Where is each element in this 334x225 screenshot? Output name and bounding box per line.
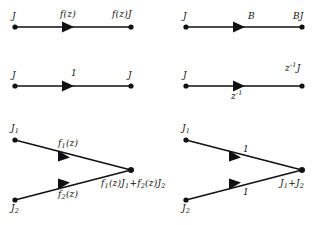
p5-sum-f2-tail: (z)J xyxy=(145,178,161,188)
panel-branch-f xyxy=(12,22,133,33)
p6-sum-subscript2: 2 xyxy=(300,182,304,190)
p5-source2-subscript: 2 xyxy=(15,207,19,215)
p5-branch2-base: f xyxy=(58,189,62,199)
sink-node-1 xyxy=(128,24,133,29)
p5-branch1-subscript: 1 xyxy=(62,142,66,150)
sum-source-node-4 xyxy=(183,197,188,202)
p4-source-label: J xyxy=(183,71,187,80)
sink-node-4 xyxy=(299,83,304,88)
p4-branch-label: z-1 xyxy=(231,92,243,101)
p4-sink-operand: J xyxy=(297,63,301,73)
p6-branch1-label: 1 xyxy=(243,145,249,154)
p5-branch1-tail: (z) xyxy=(66,138,78,148)
branch-arrowhead-2 xyxy=(233,22,245,33)
p5-sum-j2-subscript: 2 xyxy=(161,182,165,190)
panel-branch-unity xyxy=(12,81,133,92)
p3-source-label: J xyxy=(12,71,16,80)
p5-branch1-base: f xyxy=(58,138,62,148)
sum-source-node-3 xyxy=(183,137,188,142)
p6-source2-subscript: 2 xyxy=(186,207,190,215)
p5-sum-f1-subscript: 1 xyxy=(105,182,109,190)
p5-sum-f1: f xyxy=(101,178,105,188)
p6-source1-subscript: 1 xyxy=(186,127,190,135)
p5-sum-f1-tail: (z)J xyxy=(109,178,125,188)
p1-source-label: J xyxy=(12,12,16,21)
p6-source2-label: J2 xyxy=(182,204,190,213)
summing-node-2 xyxy=(299,167,305,173)
p5-branch1-label: f1(z) xyxy=(58,139,78,148)
p6-branch2-label: 1 xyxy=(243,188,249,197)
signal-flow-graph-canvas: f(z)J ===== --> BJ ===== --> J ===== -->… xyxy=(0,0,334,225)
p2-source-label: J xyxy=(183,12,187,21)
p2-branch-label: B xyxy=(248,12,255,21)
p4-branch-exponent: -1 xyxy=(236,89,243,97)
p5-sum-label: f1(z)J1+f2(z)J2 xyxy=(101,179,166,188)
p5-sum-f2-subscript: 2 xyxy=(141,182,145,190)
source-node-2 xyxy=(183,24,188,29)
p5-source1-subscript: 1 xyxy=(15,127,19,135)
source-node-4 xyxy=(183,83,188,88)
branch-arrowhead-3 xyxy=(62,81,74,92)
panel-branch-B xyxy=(183,22,304,33)
p3-sink-label: J xyxy=(128,71,132,80)
summing-node-1 xyxy=(128,167,134,173)
p5-sum-plus: + xyxy=(129,178,137,188)
p6-sum-label: J1+J2 xyxy=(280,179,304,188)
p1-sink-label: f(z)J xyxy=(112,10,132,19)
p3-branch-label: 1 xyxy=(71,69,77,78)
source-node-1 xyxy=(12,24,17,29)
sink-node-3 xyxy=(128,83,133,88)
sum-source-node-2 xyxy=(12,197,17,202)
p5-branch2-tail: (z) xyxy=(66,189,78,199)
p6-source1-label: J1 xyxy=(182,124,190,133)
sink-node-2 xyxy=(299,24,304,29)
p1-branch-label: f(z) xyxy=(60,10,76,19)
branch-arrowhead-1 xyxy=(62,22,74,33)
p5-branch2-subscript: 2 xyxy=(62,193,66,201)
p6-sum-plus: + xyxy=(288,178,296,188)
p4-sink-label: z-1J xyxy=(285,64,301,73)
sum-source-node-1 xyxy=(12,137,17,142)
p5-source2-label: J2 xyxy=(11,204,19,213)
p2-sink-label: BJ xyxy=(293,12,304,21)
p5-sum-j1-subscript: 1 xyxy=(125,182,129,190)
p6-sum-subscript1: 1 xyxy=(284,182,288,190)
p5-branch2-label: f2(z) xyxy=(58,190,78,199)
p5-source1-label: J1 xyxy=(11,124,19,133)
panel-branch-unit-delay xyxy=(183,81,304,92)
p4-sink-exponent: -1 xyxy=(290,61,297,69)
source-node-3 xyxy=(12,83,17,88)
